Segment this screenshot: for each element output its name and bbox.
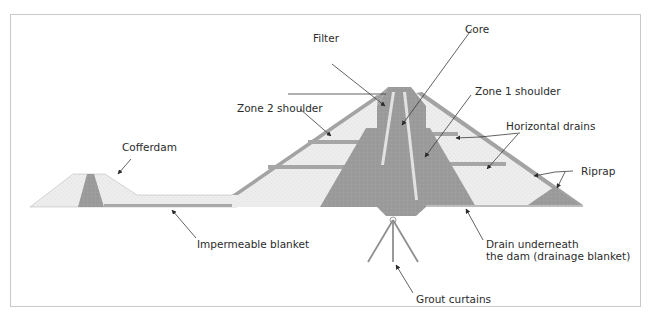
grout-curtains	[368, 217, 418, 262]
label-drain-underneath-line2: the dam (drainage blanket)	[486, 250, 630, 262]
label-grout-curtains: Grout curtains	[416, 293, 491, 305]
drainage-blanket	[426, 205, 583, 207]
cofferdam	[30, 174, 237, 207]
horizontal-drain-lower	[446, 162, 506, 166]
label-filter: Filter	[313, 32, 340, 44]
label-riprap: Riprap	[581, 165, 616, 177]
label-zone1-shoulder: Zone 1 shoulder	[475, 85, 561, 97]
label-core: Core	[465, 23, 489, 35]
label-cofferdam: Cofferdam	[122, 141, 177, 153]
label-zone2-shoulder: Zone 2 shoulder	[237, 102, 323, 114]
dam-cross-section-diagram: Filter Core Zone 2 shoulder Zone 1 shoul…	[0, 0, 652, 322]
label-horizontal-drains: Horizontal drains	[506, 120, 595, 132]
label-impermeable-blanket: Impermeable blanket	[197, 238, 309, 250]
label-drain-underneath: Drain underneath	[486, 238, 579, 250]
